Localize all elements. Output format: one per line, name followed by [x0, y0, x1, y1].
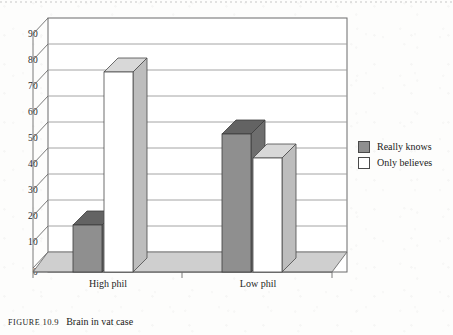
- legend-item-really-knows[interactable]: Really knows: [358, 139, 453, 154]
- caption-title: Brain in vat case: [66, 316, 133, 327]
- chart-canvas: [0, 6, 360, 294]
- legend-item-only-believes[interactable]: Only believes: [358, 155, 453, 170]
- figure-caption: Figure 10.9 Brain in vat case: [8, 316, 133, 328]
- legend-swatch-only-believes: [358, 157, 370, 169]
- x-tick-high-phil: High phil: [58, 278, 158, 289]
- bar-side-face: [133, 58, 147, 272]
- plot-area: 90 80 70 60 50 40 30 20 10 0: [0, 6, 360, 294]
- legend-swatch-really-knows: [358, 141, 370, 153]
- bar-front-face: [222, 134, 251, 272]
- legend-label-only-believes: Only believes: [377, 157, 432, 168]
- bar-front-face: [104, 72, 133, 272]
- y-axis-depth-edges: [33, 18, 48, 272]
- bar-side-face: [282, 144, 296, 272]
- legend-label-really-knows: Really knows: [377, 141, 432, 152]
- caption-label: Figure: [8, 318, 40, 327]
- bar-low-phil-only-believes[interactable]: [253, 144, 296, 272]
- bar-front-face: [253, 158, 282, 272]
- figure-brain-in-vat-chart: 90 80 70 60 50 40 30 20 10 0: [0, 0, 453, 335]
- caption-number: 10.9: [43, 317, 59, 327]
- bar-high-phil-only-believes[interactable]: [104, 58, 147, 272]
- x-tick-low-phil: Low phil: [208, 278, 308, 289]
- bar-front-face: [73, 225, 102, 272]
- chart-legend: Really knows Only believes: [358, 139, 453, 171]
